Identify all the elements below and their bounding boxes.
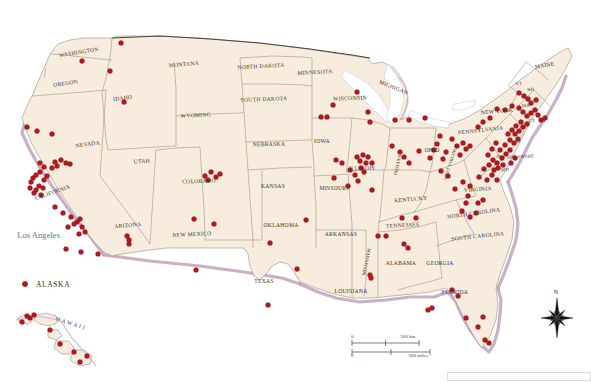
location-marker[interactable] — [498, 148, 503, 153]
location-marker[interactable] — [366, 110, 371, 115]
location-marker[interactable] — [42, 165, 47, 170]
location-marker[interactable] — [304, 218, 309, 223]
location-marker[interactable] — [494, 141, 499, 146]
location-marker[interactable] — [486, 153, 491, 158]
location-marker[interactable] — [125, 234, 130, 239]
location-marker[interactable] — [68, 162, 73, 167]
location-marker[interactable] — [72, 350, 77, 355]
location-marker[interactable] — [481, 315, 486, 320]
location-marker[interactable] — [83, 230, 88, 235]
location-marker[interactable] — [53, 205, 58, 210]
location-marker[interactable] — [80, 225, 85, 230]
location-marker[interactable] — [426, 308, 431, 313]
location-marker[interactable] — [458, 153, 463, 158]
location-marker[interactable] — [519, 120, 524, 125]
location-marker[interactable] — [477, 175, 482, 180]
location-marker[interactable] — [461, 180, 466, 185]
location-marker[interactable] — [370, 188, 375, 193]
location-marker[interactable] — [356, 179, 361, 184]
location-marker[interactable] — [476, 325, 481, 330]
location-marker[interactable] — [353, 173, 358, 178]
location-marker[interactable] — [59, 158, 64, 163]
location-marker[interactable] — [72, 222, 77, 227]
location-marker[interactable] — [77, 232, 82, 237]
location-marker[interactable] — [407, 161, 412, 166]
location-marker[interactable] — [25, 314, 30, 319]
location-marker[interactable] — [517, 91, 522, 96]
location-marker[interactable] — [32, 313, 37, 318]
location-marker[interactable] — [485, 178, 490, 183]
location-marker[interactable] — [96, 252, 101, 257]
location-marker[interactable] — [488, 116, 493, 121]
location-marker[interactable] — [78, 217, 83, 222]
location-marker[interactable] — [487, 341, 492, 346]
location-marker[interactable] — [85, 354, 90, 359]
location-marker[interactable] — [194, 268, 199, 273]
location-markers-layer[interactable] — [20, 41, 548, 365]
location-marker[interactable] — [80, 59, 85, 64]
location-marker[interactable] — [428, 156, 433, 161]
location-marker[interactable] — [435, 142, 440, 147]
location-marker[interactable] — [218, 172, 223, 177]
location-marker[interactable] — [376, 234, 381, 239]
location-marker[interactable] — [508, 148, 513, 153]
location-marker[interactable] — [402, 155, 407, 160]
location-marker[interactable] — [417, 149, 422, 154]
location-marker[interactable] — [444, 150, 449, 155]
location-marker[interactable] — [368, 120, 373, 125]
location-marker[interactable] — [41, 186, 46, 191]
location-marker[interactable] — [490, 173, 495, 178]
location-marker[interactable] — [509, 161, 514, 166]
location-marker[interactable] — [393, 118, 398, 123]
location-marker[interactable] — [212, 222, 217, 227]
location-marker[interactable] — [390, 144, 395, 149]
location-marker[interactable] — [79, 250, 84, 255]
location-marker[interactable] — [127, 242, 132, 247]
location-marker[interactable] — [466, 194, 471, 199]
location-marker[interactable] — [361, 153, 366, 158]
location-marker[interactable] — [414, 216, 419, 221]
location-marker[interactable] — [534, 98, 539, 103]
location-marker[interactable] — [28, 186, 33, 191]
location-marker[interactable] — [506, 132, 511, 137]
location-marker[interactable] — [334, 158, 339, 163]
location-marker[interactable] — [50, 132, 55, 137]
location-marker[interactable] — [325, 115, 330, 120]
location-marker[interactable] — [209, 170, 214, 175]
location-marker[interactable] — [42, 178, 47, 183]
location-marker[interactable] — [517, 129, 522, 134]
location-marker[interactable] — [50, 166, 55, 171]
location-marker[interactable] — [332, 176, 337, 181]
location-marker[interactable] — [423, 116, 428, 121]
location-marker[interactable] — [358, 159, 363, 164]
location-marker[interactable] — [58, 342, 63, 347]
location-marker[interactable] — [482, 167, 487, 172]
location-marker[interactable] — [25, 125, 30, 130]
location-marker[interactable] — [402, 242, 407, 247]
location-marker[interactable] — [468, 144, 473, 149]
location-marker[interactable] — [369, 276, 374, 281]
location-marker[interactable] — [476, 201, 481, 206]
location-marker[interactable] — [398, 150, 403, 155]
location-marker[interactable] — [495, 178, 500, 183]
location-marker[interactable] — [53, 160, 58, 165]
location-marker[interactable] — [119, 41, 124, 46]
location-marker[interactable] — [521, 110, 526, 115]
location-marker[interactable] — [69, 215, 74, 220]
location-marker[interactable] — [495, 161, 500, 166]
location-marker[interactable] — [517, 106, 522, 111]
location-marker[interactable] — [78, 360, 83, 365]
location-marker[interactable] — [331, 103, 336, 108]
location-marker[interactable] — [38, 161, 43, 166]
location-marker[interactable] — [533, 108, 538, 113]
location-marker[interactable] — [400, 216, 405, 221]
location-marker[interactable] — [295, 267, 300, 272]
location-marker[interactable] — [268, 241, 273, 246]
location-marker[interactable] — [406, 246, 411, 251]
location-marker[interactable] — [407, 118, 412, 123]
location-marker[interactable] — [514, 124, 519, 129]
location-marker[interactable] — [464, 316, 469, 321]
location-marker[interactable] — [438, 134, 443, 139]
location-marker[interactable] — [48, 328, 53, 333]
location-marker[interactable] — [266, 303, 271, 308]
